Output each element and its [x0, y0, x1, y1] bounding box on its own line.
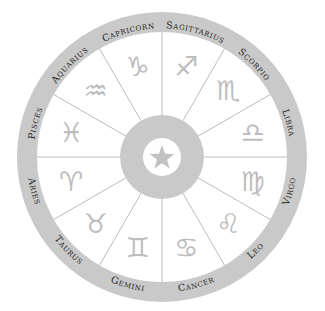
gemini-symbol-icon: ♊ — [126, 232, 150, 263]
cancer-symbol-icon: ♋ — [174, 232, 198, 263]
pisces-symbol-icon: ♓ — [59, 117, 83, 148]
virgo-symbol-icon: ♍ — [241, 166, 265, 197]
scorpio-symbol-icon: ♏ — [216, 75, 240, 106]
capricorn-symbol-icon: ♑ — [126, 51, 150, 82]
libra-symbol-icon: ♎ — [241, 117, 265, 148]
taurus-symbol-icon: ♉ — [83, 208, 107, 239]
aquarius-symbol-icon: ♒ — [83, 75, 107, 106]
sagittarius-symbol-icon: ♐ — [174, 51, 198, 82]
aries-symbol-icon: ♈ — [59, 166, 83, 197]
zodiac-wheel: ♎♏♐♑♒♓♈♉♊♋♌♍ LibraScorpioSagittariusCapr… — [0, 0, 325, 311]
leo-symbol-icon: ♌ — [216, 208, 240, 239]
